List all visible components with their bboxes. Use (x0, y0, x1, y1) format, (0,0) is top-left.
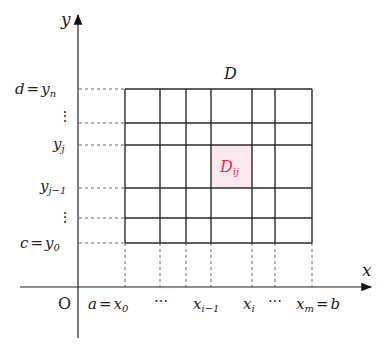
y-tick-d-yn: d=yn (15, 80, 56, 99)
x-tick-a-x0: a=x0 (88, 295, 129, 314)
double-integral-partition-diagram: y x O D Dij d=yn ⋮ yj yj−1 ⋮ c=y0 a=x0 ⋯… (0, 0, 379, 348)
cell-label-sub: ij (233, 166, 239, 177)
origin-label: O (58, 294, 71, 313)
y-axis-label: y (60, 9, 71, 29)
x-tick-xi-1: xi−1 (193, 295, 219, 314)
y-tick-c-y0: c=y0 (20, 234, 60, 253)
x-tick-labels: a=x0 ⋯ xi−1 xi ⋯ xm=b (88, 293, 340, 314)
x-axis-label: x (362, 260, 372, 280)
x-tick-xm-b: xm=b (296, 295, 340, 314)
y-tick-labels: d=yn ⋮ yj yj−1 ⋮ c=y0 (15, 80, 72, 253)
x-tick-hdots-1: ⋯ (154, 293, 168, 309)
region-label: D (223, 64, 237, 83)
cell-label-main: D (219, 157, 233, 176)
y-projection-lines (79, 89, 125, 243)
y-tick-yj-1: yj−1 (39, 177, 66, 196)
x-projection-lines (125, 243, 312, 287)
x-tick-xi: xi (243, 295, 255, 314)
x-tick-hdots-2: ⋯ (268, 293, 282, 309)
y-tick-vdots-1: ⋮ (58, 108, 72, 124)
y-tick-yj: yj (52, 135, 65, 154)
y-tick-vdots-2: ⋮ (58, 209, 72, 225)
